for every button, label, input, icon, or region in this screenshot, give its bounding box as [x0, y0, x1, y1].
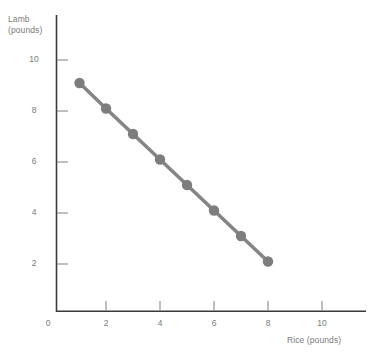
- y-tick-label-8: 8: [24, 105, 44, 115]
- y-tick-label-6: 6: [24, 156, 44, 166]
- data-point[interactable]: [155, 154, 165, 164]
- data-point[interactable]: [128, 129, 138, 139]
- y-tick-label-10: 10: [24, 54, 44, 64]
- y-tick-label-2: 2: [24, 258, 44, 268]
- x-tick-label-8: 8: [258, 318, 278, 328]
- x-tick-label-10: 10: [312, 318, 332, 328]
- x-tick-label-2: 2: [96, 318, 116, 328]
- data-point[interactable]: [236, 231, 246, 241]
- data-point[interactable]: [74, 78, 84, 88]
- chart-container: Lamb(pounds) Rice (pounds): [0, 0, 377, 355]
- data-point[interactable]: [209, 205, 219, 215]
- x-tick-label-6: 6: [204, 318, 224, 328]
- origin-label: 0: [38, 318, 58, 328]
- y-axis-ticks: [57, 60, 68, 264]
- y-tick-label-4: 4: [24, 207, 44, 217]
- x-tick-label-4: 4: [150, 318, 170, 328]
- data-point[interactable]: [182, 180, 192, 190]
- chart-svg: [0, 0, 377, 355]
- x-axis-ticks: [106, 301, 322, 311]
- data-point[interactable]: [101, 103, 111, 113]
- data-point[interactable]: [263, 256, 273, 266]
